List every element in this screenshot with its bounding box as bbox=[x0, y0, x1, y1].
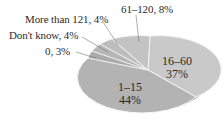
pie-chart: 61–120, 8% More than 121, 4% Don't know,… bbox=[0, 0, 224, 130]
label-16-60-pct: 37% bbox=[162, 68, 192, 81]
label-dont-know: Don't know, 4% bbox=[9, 29, 78, 41]
label-1-15: 1–15 44% bbox=[118, 81, 142, 107]
label-61-120: 61–120, 8% bbox=[121, 3, 173, 15]
label-1-15-pct: 44% bbox=[118, 94, 142, 107]
label-0: 0, 3% bbox=[45, 45, 70, 57]
label-more-than-121: More than 121, 4% bbox=[25, 13, 108, 25]
label-16-60: 16–60 37% bbox=[162, 55, 192, 81]
